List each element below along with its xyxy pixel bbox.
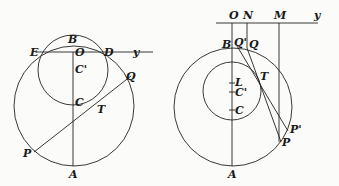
left-figure: B E O D y C' Q C T P A: [14, 33, 153, 181]
label-q: Q: [249, 38, 259, 51]
label-c-prime: C': [75, 63, 87, 76]
label-c: C: [235, 104, 244, 117]
label-o: O: [229, 9, 239, 22]
label-y: y: [132, 46, 141, 59]
right-figure: O N M y B Q' Q L C' C T P' P A: [174, 9, 322, 181]
label-c: C: [75, 96, 84, 109]
label-p: P: [22, 147, 32, 160]
line-qp: [247, 48, 281, 142]
label-e: E: [29, 46, 39, 59]
large-circle: [174, 48, 292, 166]
label-b: B: [221, 38, 231, 51]
label-n: N: [242, 9, 254, 22]
label-d: D: [103, 46, 114, 59]
label-b: B: [67, 33, 77, 46]
label-q: Q: [126, 70, 136, 83]
label-q-prime: Q': [234, 36, 247, 49]
label-m: M: [273, 9, 287, 22]
label-p-prime: P': [289, 123, 302, 136]
label-a: A: [227, 168, 237, 181]
large-circle: [14, 46, 134, 166]
geometry-diagram: B E O D y C' Q C T P A O N M y B Q' Q L …: [0, 0, 339, 186]
label-t: T: [97, 103, 106, 116]
label-o: O: [75, 46, 85, 59]
label-c-prime: C': [235, 86, 247, 99]
label-t: T: [260, 70, 269, 83]
label-a: A: [68, 168, 78, 181]
label-p: P: [281, 136, 291, 149]
chord-pq: [34, 76, 131, 152]
label-y: y: [313, 9, 322, 22]
